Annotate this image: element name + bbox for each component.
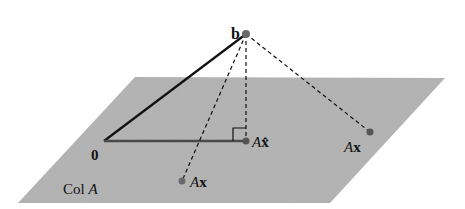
label-col-a-prefix: Col bbox=[63, 181, 88, 197]
label-ax-right-vector: x bbox=[353, 139, 361, 155]
label-col-a-matrix: A bbox=[87, 181, 98, 197]
label-projection-vector: x̂ bbox=[261, 134, 269, 150]
point-ax-lower bbox=[179, 178, 186, 185]
label-ax-lower-vector: x bbox=[199, 174, 207, 190]
point-ax-right bbox=[367, 129, 374, 136]
label-ax-right: Ax bbox=[343, 139, 361, 155]
label-origin: 0 bbox=[91, 147, 99, 163]
point-b bbox=[242, 30, 250, 38]
least-squares-diagram: b 0 Ax̂ Ax Ax Col A bbox=[0, 0, 465, 209]
label-projection: Ax̂ bbox=[251, 134, 269, 150]
label-b: b bbox=[231, 25, 240, 42]
label-col-a: Col A bbox=[63, 181, 98, 197]
label-ax-lower: Ax bbox=[189, 174, 207, 190]
point-projection bbox=[243, 138, 250, 145]
